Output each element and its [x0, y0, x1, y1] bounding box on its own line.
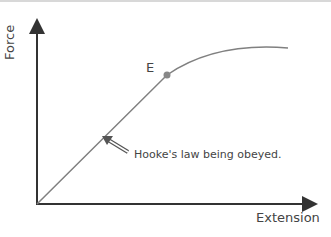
- force-extension-curve: [37, 47, 288, 204]
- y-axis-label: Force: [2, 25, 17, 60]
- elastic-limit-point: [164, 72, 171, 79]
- point-label: E: [146, 60, 154, 75]
- force-extension-graph: [0, 0, 331, 237]
- x-axis-label: Extension: [256, 210, 320, 225]
- annotation-text: Hooke's law being obeyed.: [134, 148, 282, 161]
- annotation-arrow-icon: [102, 136, 128, 152]
